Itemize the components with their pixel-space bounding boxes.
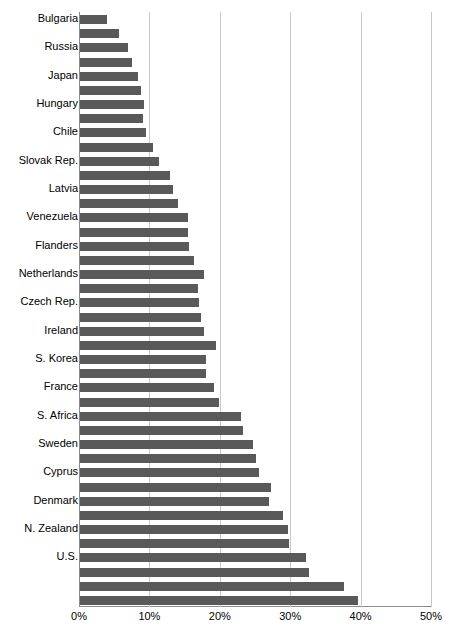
bar <box>80 454 256 463</box>
y-axis-label-latvia: Latvia <box>2 183 78 194</box>
bar <box>80 497 269 506</box>
x-tick-label-10%: 10% <box>138 610 160 622</box>
bar <box>80 86 141 95</box>
x-tick-label-50%: 50% <box>420 610 442 622</box>
bar <box>80 15 107 24</box>
bar-row <box>79 352 431 366</box>
bar <box>80 426 243 435</box>
bar <box>80 582 344 591</box>
bar <box>80 58 132 67</box>
bar-row <box>79 140 431 154</box>
bar <box>80 313 201 322</box>
bar <box>80 29 119 38</box>
bar-row <box>79 83 431 97</box>
bar <box>80 298 199 307</box>
y-axis-label-u-s: U.S. <box>2 551 78 562</box>
bar <box>80 43 128 52</box>
bar <box>80 468 259 477</box>
bar <box>80 412 241 421</box>
y-axis-label-czech-rep: Czech Rep. <box>2 296 78 307</box>
bar-row <box>79 579 431 593</box>
bar-row <box>79 111 431 125</box>
bar-row <box>79 239 431 253</box>
bar <box>80 327 204 336</box>
y-axis-label-cyprus: Cyprus <box>2 466 78 477</box>
bar-row <box>79 437 431 451</box>
x-tick-label-40%: 40% <box>350 610 372 622</box>
bar <box>80 539 289 548</box>
y-axis-label-n-zealand: N. Zealand <box>2 523 78 534</box>
bar <box>80 440 253 449</box>
y-axis-label-venezuela: Venezuela <box>2 211 78 222</box>
bar-row <box>79 154 431 168</box>
bar-row <box>79 168 431 182</box>
y-axis-label-chile: Chile <box>2 126 78 137</box>
bar-row <box>79 395 431 409</box>
bar <box>80 284 198 293</box>
bar-row <box>79 565 431 579</box>
bar-row <box>79 593 431 607</box>
bar <box>80 242 189 251</box>
bar-row <box>79 97 431 111</box>
bar <box>80 383 214 392</box>
y-axis-label-denmark: Denmark <box>2 495 78 506</box>
bar-row <box>79 508 431 522</box>
bar <box>80 228 188 237</box>
bar <box>80 72 138 81</box>
bar-row <box>79 451 431 465</box>
bar-row <box>79 196 431 210</box>
y-axis-category-labels: BulgariaRussiaJapanHungaryChileSlovak Re… <box>0 12 78 607</box>
plot-area <box>79 12 431 607</box>
bar <box>80 114 143 123</box>
bar-row <box>79 125 431 139</box>
bar-row <box>79 55 431 69</box>
x-tick-label-20%: 20% <box>209 610 231 622</box>
bar <box>80 341 216 350</box>
x-tick-label-30%: 30% <box>279 610 301 622</box>
bar-row <box>79 310 431 324</box>
y-axis-label-s-korea: S. Korea <box>2 353 78 364</box>
y-axis-label-bulgaria: Bulgaria <box>2 13 78 24</box>
bar-row <box>79 465 431 479</box>
bar <box>80 511 283 520</box>
bar-row <box>79 267 431 281</box>
y-axis-label-ireland: Ireland <box>2 325 78 336</box>
x-axis-tick-labels: 0%10%20%30%40%50% <box>79 610 431 628</box>
bar <box>80 157 159 166</box>
bar-row <box>79 12 431 26</box>
bar <box>80 171 170 180</box>
bar-row <box>79 409 431 423</box>
y-axis-label-japan: Japan <box>2 70 78 81</box>
y-axis-label-s-africa: S. Africa <box>2 410 78 421</box>
bar <box>80 355 206 364</box>
bar <box>80 398 219 407</box>
bar-row <box>79 536 431 550</box>
y-axis-label-slovak-rep: Slovak Rep. <box>2 155 78 166</box>
bar <box>80 369 206 378</box>
bar-row <box>79 225 431 239</box>
bar-row <box>79 423 431 437</box>
x-tick-label-0%: 0% <box>71 610 87 622</box>
bar-row <box>79 253 431 267</box>
bar <box>80 256 194 265</box>
y-axis-label-france: France <box>2 381 78 392</box>
bar-row <box>79 324 431 338</box>
bar-row <box>79 550 431 564</box>
y-axis-label-russia: Russia <box>2 41 78 52</box>
bar <box>80 100 144 109</box>
y-axis-label-flanders: Flanders <box>2 240 78 251</box>
bar-row <box>79 295 431 309</box>
bar <box>80 596 358 605</box>
bar-row <box>79 338 431 352</box>
gridline-50% <box>431 12 432 607</box>
bar-row <box>79 69 431 83</box>
bar-row <box>79 26 431 40</box>
bar-chart: BulgariaRussiaJapanHungaryChileSlovak Re… <box>0 0 457 636</box>
y-axis-label-sweden: Sweden <box>2 438 78 449</box>
bar-row <box>79 210 431 224</box>
bar-row <box>79 40 431 54</box>
bar <box>80 143 153 152</box>
bar <box>80 483 271 492</box>
bar-row <box>79 182 431 196</box>
y-axis-label-netherlands: Netherlands <box>2 268 78 279</box>
